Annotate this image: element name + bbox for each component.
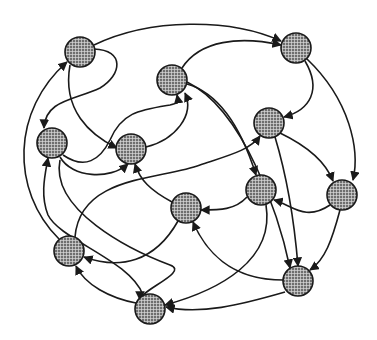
edge-c-to-g (187, 84, 256, 175)
edge-i-to-e (135, 164, 172, 202)
node-k (283, 266, 313, 296)
edge-l-to-j (76, 266, 136, 303)
edge-k-to-i (193, 222, 283, 280)
edge-b-to-h (307, 59, 355, 180)
edge-c-to-b (182, 41, 281, 68)
edge-a-to-e (69, 65, 117, 148)
edge-h-to-k (310, 210, 340, 270)
node-c (157, 65, 187, 95)
edge-b-to-f (284, 61, 313, 117)
node-e (116, 134, 146, 164)
node-g (246, 175, 276, 205)
edge-f-to-h (280, 133, 333, 181)
node-d (37, 128, 67, 158)
edges-layer (24, 24, 355, 310)
node-f (254, 108, 284, 138)
node-i (171, 193, 201, 223)
node-j (54, 236, 84, 266)
edge-l-to-d (44, 158, 143, 295)
node-h (327, 180, 357, 210)
node-b (281, 33, 311, 63)
nodes-layer (37, 33, 357, 324)
directed-graph-diagram (0, 0, 377, 340)
edge-e-to-c (146, 93, 188, 147)
edge-a-to-b (94, 24, 281, 45)
node-l (135, 294, 165, 324)
edge-g-to-i (201, 197, 247, 210)
edge-k-to-l (166, 292, 285, 310)
node-a (65, 37, 95, 67)
edge-h-to-g (274, 200, 330, 212)
